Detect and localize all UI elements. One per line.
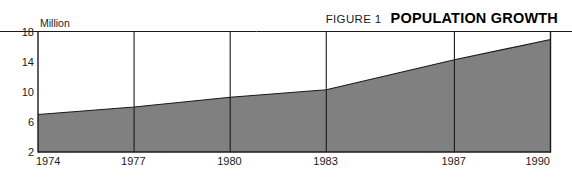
y-tick-label-18: 18	[8, 27, 34, 38]
x-tick-label-1974: 1974	[36, 156, 60, 167]
y-tick-label-6: 6	[8, 117, 34, 128]
x-tick-label-1983: 1983	[313, 156, 337, 167]
x-tick-label-1980: 1980	[217, 156, 241, 167]
figure-population-growth: FIGURE 1 POPULATION GROWTH Million 18141…	[0, 0, 572, 186]
y-tick-label-14: 14	[8, 57, 34, 68]
x-tick-label-1987: 1987	[441, 156, 465, 167]
y-tick-label-10: 10	[8, 87, 34, 98]
x-tick-label-1977: 1977	[121, 156, 145, 167]
area-chart-plot	[0, 0, 572, 186]
y-tick-label-2: 2	[8, 147, 34, 158]
area-fill-region	[38, 40, 551, 153]
x-tick-label-1990: 1990	[526, 156, 550, 167]
